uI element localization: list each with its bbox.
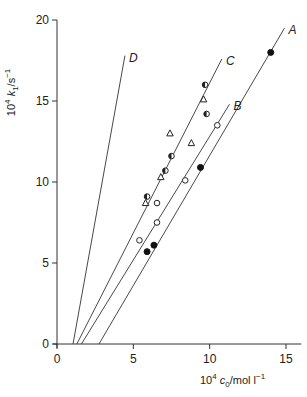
half-filled-circle-point — [169, 153, 175, 159]
open-circle-point — [137, 238, 143, 244]
filled-circle-point — [268, 49, 274, 55]
y-title-unit-exp: −1 — [3, 69, 12, 78]
y-tick-label: 0 — [42, 337, 49, 351]
filled-circle-point — [198, 164, 204, 170]
open-circle-point — [215, 123, 221, 129]
line-label-c: C — [226, 54, 235, 68]
y-title-var: k — [5, 91, 17, 97]
y-axis-title: 104 k1/s−1 — [0, 40, 36, 100]
x-axis-title: 104 c0/mol l−1 — [200, 372, 265, 389]
triangle-point — [167, 130, 173, 136]
x-title-unit-exp: −1 — [256, 372, 265, 381]
y-tick-label: 15 — [36, 94, 50, 108]
x-title-unit: /mol l — [230, 374, 256, 386]
line-label-d: D — [129, 51, 138, 65]
open-circle-point — [154, 200, 160, 206]
x-tick-label: 15 — [279, 352, 293, 366]
y-title-exp: 4 — [3, 99, 12, 103]
triangle-point — [188, 140, 194, 146]
y-title-ten: 10 — [5, 104, 17, 116]
tick-labels: 05101520051015 — [36, 13, 293, 366]
half-filled-circle-point — [144, 194, 150, 200]
half-filled-circle-point — [204, 111, 210, 117]
fit-lines — [73, 28, 284, 344]
x-title-ten: 10 — [200, 374, 212, 386]
y-tick-label: 5 — [42, 256, 49, 270]
filled-circle-point — [151, 242, 157, 248]
filled-circle-point — [144, 249, 150, 255]
line-label-a: A — [287, 23, 296, 37]
fit-line-a — [99, 28, 284, 344]
axes — [52, 20, 301, 349]
y-tick-label: 10 — [36, 175, 50, 189]
open-circle-point — [154, 220, 160, 226]
x-tick-label: 0 — [54, 352, 61, 366]
half-filled-circle-point — [163, 168, 169, 174]
x-tick-label: 5 — [130, 352, 137, 366]
line-labels: ABCD — [129, 23, 297, 113]
y-title-unit: /s — [5, 78, 17, 87]
open-circle-point — [182, 178, 188, 184]
x-tick-label: 10 — [203, 352, 217, 366]
line-label-b: B — [234, 99, 242, 113]
triangle-point — [142, 200, 148, 206]
half-filled-circle-point — [202, 82, 208, 88]
chart: 05101520051015 ABCD — [0, 0, 307, 397]
y-tick-label: 20 — [36, 13, 50, 27]
y-title-sub: 1 — [11, 86, 20, 90]
x-title-exp: 4 — [212, 372, 216, 381]
data-points — [137, 49, 274, 254]
